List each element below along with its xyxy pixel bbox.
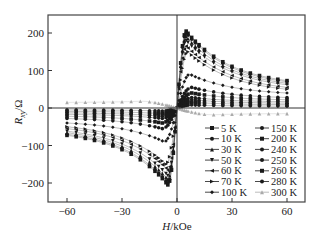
legend-item: 150 K — [255, 123, 297, 134]
svg-text:−100: −100 — [21, 140, 44, 152]
svg-text:−30: −30 — [113, 205, 131, 217]
legend-label: 150 K — [271, 123, 297, 134]
hall-resistance-chart: −200−1000100200 −60−3003060 Rxy/Ω H/kOe … — [0, 0, 317, 236]
legend-item: 100 K — [205, 187, 247, 198]
legend-item: 10 K — [205, 133, 242, 144]
legend-label: 200 K — [271, 133, 297, 144]
legend-item: 300 K — [255, 187, 297, 198]
legend-label: 50 K — [221, 155, 242, 166]
y-axis-title: Rxy/Ω — [12, 99, 27, 125]
legend-item: 60 K — [205, 165, 242, 176]
legend-label: 280 K — [271, 176, 297, 187]
svg-text:Rxy/Ω: Rxy/Ω — [12, 99, 27, 125]
legend-item: 30 K — [205, 144, 242, 155]
svg-text:0: 0 — [174, 205, 180, 217]
legend-label: 70 K — [221, 176, 242, 187]
svg-text:H/kOe: H/kOe — [161, 220, 191, 232]
legend-label: 250 K — [271, 155, 297, 166]
legend-label: 30 K — [221, 144, 242, 155]
legend-label: 60 K — [221, 165, 242, 176]
legend-label: 100 K — [221, 187, 247, 198]
svg-text:60: 60 — [282, 205, 294, 217]
legend-label: 10 K — [221, 133, 242, 144]
legend-label: 300 K — [271, 187, 297, 198]
svg-text:100: 100 — [28, 65, 45, 77]
legend-label: 260 K — [271, 165, 297, 176]
legend-item: 200 K — [255, 133, 297, 144]
svg-text:−200: −200 — [21, 177, 44, 189]
legend-item: 70 K — [205, 176, 242, 187]
legend: 5 K10 K30 K50 K60 K70 K100 K150 K200 K24… — [205, 123, 297, 198]
legend-label: 5 K — [221, 123, 237, 134]
svg-text:200: 200 — [28, 27, 45, 39]
legend-item: 5 K — [205, 123, 237, 134]
x-axis-title: H/kOe — [161, 220, 191, 232]
legend-item: 280 K — [255, 176, 297, 187]
svg-text:30: 30 — [227, 205, 239, 217]
y-axis-ticks: −200−1000100200 — [21, 27, 52, 189]
legend-item: 250 K — [255, 155, 297, 166]
legend-item: 260 K — [255, 165, 297, 176]
legend-item: 50 K — [205, 155, 242, 166]
legend-label: 240 K — [271, 144, 297, 155]
legend-item: 240 K — [255, 144, 297, 155]
svg-text:0: 0 — [39, 102, 45, 114]
x-axis-ticks: −60−3003060 — [58, 198, 293, 217]
svg-text:−60: −60 — [58, 205, 76, 217]
